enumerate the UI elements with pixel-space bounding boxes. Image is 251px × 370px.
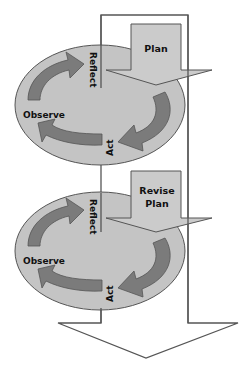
act-label: Act [105, 139, 115, 156]
act-label: Act [105, 285, 115, 302]
action-research-diagram: Plan Reflect Observe Act Revise Plan Ref… [0, 0, 251, 370]
revise-plan-label-line1: Revise [139, 185, 174, 196]
plan-label: Plan [144, 43, 168, 54]
reflect-label: Reflect [88, 199, 98, 235]
cycle-1: Plan Reflect Observe Act [15, 15, 212, 165]
observe-label: Observe [23, 256, 65, 266]
observe-label: Observe [23, 110, 65, 120]
cycle-2: Revise Plan Reflect Observe Act [15, 165, 212, 323]
reflect-label: Reflect [88, 52, 98, 88]
revise-plan-label-line2: Plan [145, 198, 169, 209]
